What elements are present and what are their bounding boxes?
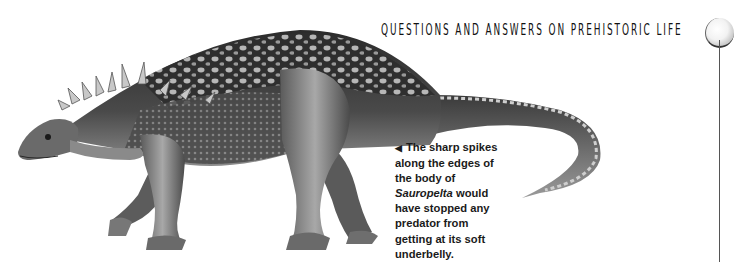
genus-name: Sauropelta xyxy=(395,187,453,199)
figure-caption: ◀The sharp spikes along the edges of the… xyxy=(395,140,525,262)
caption-line: have stopped any xyxy=(395,202,490,214)
caption-line: the body of xyxy=(395,172,455,184)
caption-line: The sharp spikes xyxy=(406,141,497,153)
caption-line: predator from xyxy=(395,217,468,229)
caption-line: getting at its soft xyxy=(395,233,485,245)
pointer-left-icon: ◀ xyxy=(395,143,402,153)
caption-line: underbelly. xyxy=(395,248,454,260)
margin-rule xyxy=(719,40,720,262)
caption-line: would xyxy=(453,187,488,199)
caption-line: along the edges of xyxy=(395,157,494,169)
sauropelta-illustration xyxy=(0,0,620,262)
